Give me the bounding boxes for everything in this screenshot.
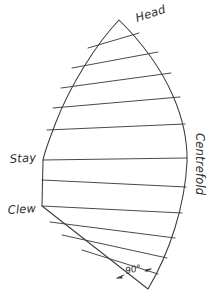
angle-arrowhead-left (116, 275, 123, 278)
label-centrefold: Centrefold (193, 133, 207, 196)
label-head: Head (134, 2, 168, 25)
label-stay: Stay (9, 150, 36, 166)
sail-drawing-canvas: Head Centrefold Stay Clew 90° (0, 0, 213, 303)
sail-panel-diagram: Head Centrefold Stay Clew 90° (0, 0, 213, 303)
label-clew: Clew (7, 201, 37, 217)
